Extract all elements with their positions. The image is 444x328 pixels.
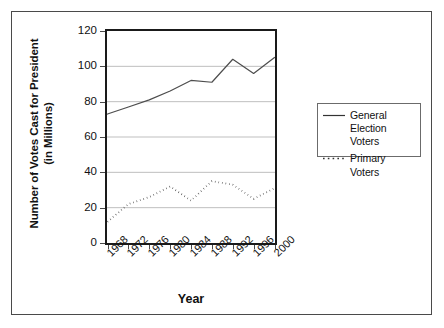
legend-item-general-election-voters: General Election Voters bbox=[322, 109, 416, 148]
y-tick-label: 60 bbox=[63, 131, 97, 143]
plot-canvas bbox=[107, 31, 275, 243]
chart-figure: Number of Votes Cast for President (in M… bbox=[0, 0, 444, 328]
chart-legend: General Election Voters Primary Voters bbox=[317, 103, 421, 157]
y-axis-title-line-1: Number of Votes Cast for President bbox=[28, 19, 42, 249]
legend-label-line-1: General Election bbox=[350, 109, 387, 134]
y-axis-title: Number of Votes Cast for President (in M… bbox=[28, 19, 55, 249]
y-tick-label: 20 bbox=[63, 202, 97, 214]
x-axis-title: Year bbox=[105, 292, 277, 306]
y-tick-label: 40 bbox=[63, 166, 97, 178]
y-tick-label: 0 bbox=[63, 237, 97, 249]
plot-area bbox=[105, 29, 277, 245]
y-tick-label: 120 bbox=[63, 25, 97, 37]
solid-line-icon bbox=[322, 109, 346, 121]
y-axis-title-line-2: (in Millions) bbox=[42, 19, 56, 249]
legend-label-general-election-voters: General Election Voters bbox=[350, 109, 416, 148]
legend-label-line-2: Voters bbox=[350, 135, 379, 147]
y-tick-label: 100 bbox=[63, 60, 97, 72]
series-line-2 bbox=[108, 181, 275, 222]
y-tick-label: 80 bbox=[63, 96, 97, 108]
legend-label-line-1: Primary Voters bbox=[350, 152, 385, 177]
legend-item-primary-voters: Primary Voters bbox=[322, 152, 416, 178]
legend-label-primary-voters: Primary Voters bbox=[350, 152, 416, 178]
dotted-line-icon bbox=[322, 152, 346, 164]
